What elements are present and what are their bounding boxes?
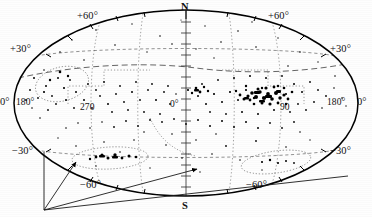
lon-270-label: 270 (80, 103, 95, 113)
lat-plus60-right-label: +60° (268, 11, 289, 22)
lat-zero-left-label: 0° (0, 97, 10, 108)
south-pole-label: S (182, 201, 188, 212)
map-canvas (0, 0, 372, 217)
cloud-knots-left (89, 153, 138, 160)
secondary-clump (187, 86, 209, 94)
lon-180-left-label: 180° (16, 98, 34, 108)
lat-minus30-right-label: −30° (330, 146, 351, 157)
lat-plus30-right-label: +30° (330, 44, 351, 55)
lat-plus60-left-label: +60° (77, 11, 98, 22)
lon-0-center-label: 0° (170, 100, 179, 110)
lon-180-right-label: 180° (327, 98, 345, 108)
graticule-group (14, 11, 358, 196)
lat-zero-right-label: 0° (357, 97, 367, 108)
zone-contour-right-arc (150, 118, 196, 156)
cloud-knots-right (261, 159, 295, 164)
sky-map-figure: N S +60° +60° +30° +30° 0° 0° −30° −30° … (0, 0, 372, 217)
zone-contour-lower-right (240, 146, 312, 178)
lat-plus30-left-label: +30° (10, 44, 31, 55)
zone-contour-lower-left (71, 145, 148, 171)
lat-minus60-right-label: −60° (246, 180, 267, 191)
lat-minus60-left-label: −60° (80, 180, 101, 191)
lon-90-label: 90 (280, 103, 290, 113)
lat-minus30-left-label: −30° (12, 146, 33, 157)
north-pole-label: N (181, 2, 189, 13)
